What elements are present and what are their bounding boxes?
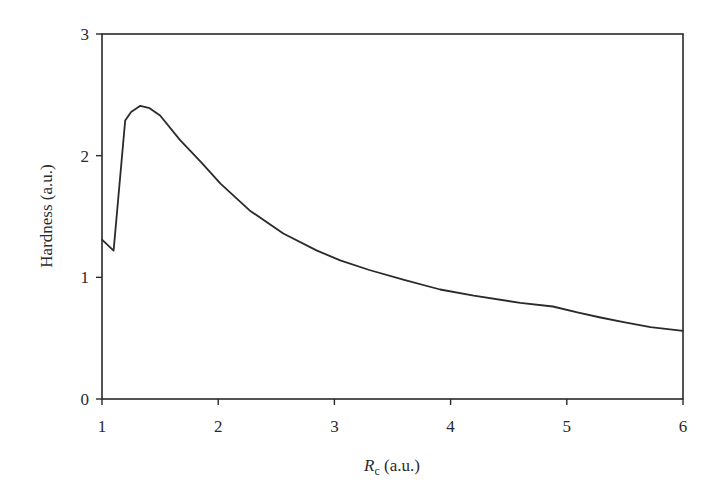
x-tick-label: 6 [679,417,688,436]
chart-canvas: 123456 0123 Rc (a.u.) Hardness (a.u.) [0,0,721,499]
y-tick-label: 2 [81,147,90,166]
x-tick-label: 1 [98,417,107,436]
x-tick-label: 2 [214,417,223,436]
x-axis-ticks: 123456 [98,399,688,436]
series-layer [102,106,683,331]
hardness-curve [102,106,683,331]
y-tick-label: 1 [81,268,90,287]
x-axis-label-main: R [363,456,375,475]
x-tick-label: 5 [563,417,572,436]
plot-border [102,34,683,399]
y-axis-ticks: 0123 [81,25,103,409]
y-tick-label: 3 [81,25,90,44]
x-tick-label: 4 [446,417,455,436]
plot-frame [102,34,683,399]
chart: 123456 0123 Rc (a.u.) Hardness (a.u.) [0,0,721,499]
x-axis-label: Rc (a.u.) [363,456,420,478]
x-axis-label-units: (a.u.) [380,456,420,475]
y-axis-label: Hardness (a.u.) [37,164,56,267]
x-tick-label: 3 [330,417,339,436]
y-tick-label: 0 [81,390,90,409]
